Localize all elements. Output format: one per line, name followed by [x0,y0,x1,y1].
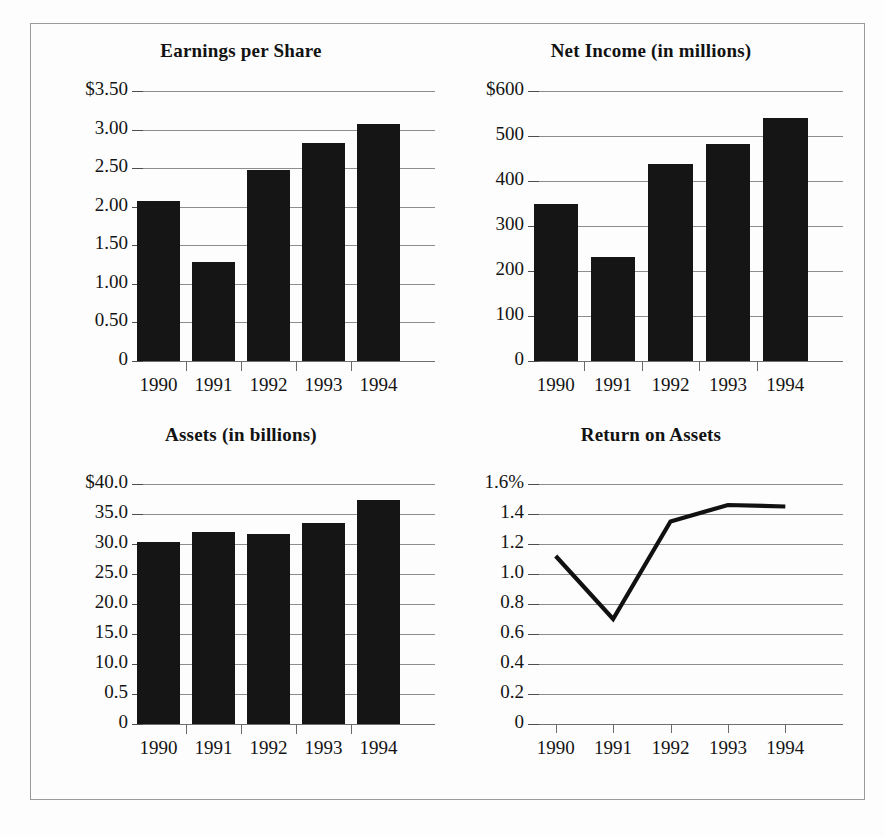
x-tick-mark [613,724,614,733]
y-tick-label: 400 [414,168,524,190]
bar [192,262,235,362]
chart-grid-frame: Earnings per Share 00.501.001.502.002.50… [30,23,865,800]
chart-panel-return-on-assets: Return on Assets 00.20.40.60.81.01.21.41… [431,412,866,801]
bar [357,124,400,361]
y-tick-label: 35.0 [18,501,128,523]
gridline [539,91,843,92]
y-tick-label: 500 [414,123,524,145]
y-tick-label: 10.0 [18,651,128,673]
bar [648,164,693,361]
y-tick-label: 200 [414,258,524,280]
x-tick-mark [351,724,352,734]
chart-panel-assets: Assets (in billions) 00.510.015.020.025.… [31,412,449,801]
y-tick-label: 1.00 [18,271,128,293]
y-tick-label: 20.0 [18,591,128,613]
y-tick-label: $3.50 [18,78,128,100]
bar [247,534,290,724]
bar [534,204,579,362]
bar [357,500,400,724]
y-tick-mark [132,484,143,485]
plot-area-assets: 00.510.015.020.025.030.035.0$40.01990199… [31,412,449,801]
y-tick-mark [528,136,539,137]
x-tick-mark [186,361,187,371]
y-tick-label: 3.00 [18,117,128,139]
y-tick-label: $600 [414,78,524,100]
bar [706,144,751,361]
x-tick-mark [241,724,242,734]
x-tick-mark [728,724,729,733]
y-tick-label: 0.5 [18,681,128,703]
x-tick-mark [642,361,643,371]
y-tick-label: 1.50 [18,232,128,254]
x-tick-label: 1994 [339,737,419,759]
plot-area-return-on-assets: 00.20.40.60.81.01.21.41.6%19901991199219… [431,412,866,801]
x-tick-mark [556,724,557,733]
y-tick-label: 25.0 [18,561,128,583]
bar [192,532,235,724]
bar [137,542,180,724]
x-tick-label: 1994 [745,374,825,396]
x-tick-mark [351,361,352,371]
bar [302,523,345,724]
plot-area-earnings-per-share: 00.501.001.502.002.503.00$3.501990199119… [31,24,449,412]
plot-area-net-income: 0100200300400500$60019901991199219931994 [431,24,866,412]
y-tick-label: $40.0 [18,471,128,493]
y-tick-label: 300 [414,213,524,235]
bar [137,201,180,362]
y-tick-mark [132,724,143,725]
x-tick-mark [296,361,297,371]
y-tick-mark [528,91,539,92]
bar [591,257,636,361]
chart-panel-net-income: Net Income (in millions) 010020030040050… [431,24,866,412]
y-tick-mark [132,168,143,169]
y-tick-mark [528,361,539,362]
x-tick-mark [241,361,242,371]
bar [247,170,290,361]
y-tick-label: 30.0 [18,531,128,553]
x-tick-mark [699,361,700,371]
page-root: Earnings per Share 00.501.001.502.002.50… [0,0,884,837]
y-tick-mark [132,130,143,131]
y-tick-label: 0.50 [18,309,128,331]
x-tick-mark [671,724,672,733]
x-tick-mark [296,724,297,734]
x-tick-label: 1994 [745,737,825,759]
x-tick-mark [785,724,786,733]
y-tick-mark [528,181,539,182]
y-tick-label: 0 [18,348,128,370]
gridline [143,484,435,485]
chart-panel-earnings-per-share: Earnings per Share 00.501.001.502.002.50… [31,24,449,412]
y-tick-mark [132,91,143,92]
x-tick-mark [584,361,585,371]
x-tick-mark [757,361,758,371]
gridline [143,91,435,92]
y-tick-label: 0 [414,348,524,370]
bar [302,143,345,361]
bar [763,118,808,361]
y-tick-mark [132,514,143,515]
y-tick-label: 15.0 [18,621,128,643]
y-tick-label: 2.00 [18,194,128,216]
y-tick-label: 0 [18,711,128,733]
y-tick-label: 100 [414,303,524,325]
x-tick-mark [186,724,187,734]
y-tick-mark [132,361,143,362]
x-tick-label: 1994 [339,374,419,396]
y-tick-label: 2.50 [18,155,128,177]
